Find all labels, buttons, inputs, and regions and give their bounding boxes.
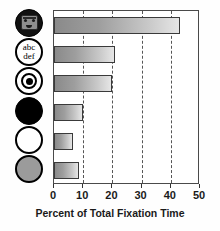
bar-row bbox=[54, 69, 200, 98]
x-tick-label-0: 0 bbox=[50, 189, 56, 201]
category-icon-cell-3 bbox=[8, 67, 50, 96]
bar-bullseye-concentric-circles bbox=[54, 75, 112, 92]
bar-row bbox=[54, 40, 200, 69]
category-icon-column: abc def bbox=[8, 8, 50, 184]
bar-row bbox=[54, 156, 200, 185]
category-icon-cell-1 bbox=[8, 8, 50, 37]
bar-text-abc-def bbox=[54, 46, 115, 63]
bar-white-circle bbox=[54, 133, 73, 150]
black-circle-icon bbox=[15, 97, 43, 125]
tickmark-10 bbox=[82, 184, 83, 188]
bar-row bbox=[54, 11, 200, 40]
bar-black-filled-circle bbox=[54, 104, 83, 121]
face-mouth bbox=[26, 25, 32, 28]
gray-circle-icon bbox=[15, 155, 43, 183]
white-circle-icon bbox=[15, 126, 43, 154]
x-axis-title: Percent of Total Fixation Time bbox=[0, 207, 220, 219]
text-icon-line2: def bbox=[23, 52, 35, 61]
bar-row bbox=[54, 98, 200, 127]
bullseye-center bbox=[26, 78, 33, 85]
bullseye-icon bbox=[15, 67, 43, 95]
tickmark-50 bbox=[199, 184, 200, 188]
plot-area bbox=[53, 10, 199, 184]
category-icon-cell-2: abc def bbox=[8, 37, 50, 66]
face-icon bbox=[15, 9, 43, 37]
tickmark-30 bbox=[141, 184, 142, 188]
face-eye-right bbox=[32, 19, 35, 22]
fixation-time-bar-chart: abc def 01020304050 Percent of Total Fix… bbox=[0, 0, 220, 231]
category-icon-cell-6 bbox=[8, 155, 50, 184]
tickmark-0 bbox=[53, 184, 54, 188]
face-image-glyph bbox=[21, 15, 38, 30]
bar-face-image bbox=[54, 17, 180, 34]
bar-row bbox=[54, 127, 200, 156]
x-tick-label-50: 50 bbox=[193, 189, 205, 201]
tickmark-40 bbox=[170, 184, 171, 188]
category-icon-cell-5 bbox=[8, 125, 50, 154]
x-axis-tick-labels: 01020304050 bbox=[0, 189, 220, 205]
category-icon-cell-4 bbox=[8, 96, 50, 125]
tickmark-20 bbox=[111, 184, 112, 188]
x-tick-label-20: 20 bbox=[105, 189, 117, 201]
bar-gray-filled-circle bbox=[54, 162, 79, 179]
text-icon: abc def bbox=[15, 38, 43, 66]
x-tick-label-30: 30 bbox=[134, 189, 146, 201]
x-tick-label-40: 40 bbox=[164, 189, 176, 201]
face-eye-left bbox=[24, 19, 27, 22]
x-tick-label-10: 10 bbox=[76, 189, 88, 201]
